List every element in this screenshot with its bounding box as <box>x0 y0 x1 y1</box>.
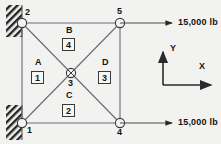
region-label-b: B <box>66 26 73 35</box>
figure-canvas: 2 1 3 4 5 A B C D 1 4 2 3 15,000 lb 15,0… <box>0 0 221 144</box>
element-box-1: 1 <box>31 71 44 84</box>
node-label-4: 4 <box>117 128 122 137</box>
node-3-marker <box>66 68 75 77</box>
load-label-bottom: 15,000 lb <box>178 118 218 127</box>
y-axis-label: Y <box>170 44 176 53</box>
region-label-c: C <box>66 91 73 100</box>
element-box-4: 4 <box>62 38 75 51</box>
node-2-marker <box>17 18 26 27</box>
load-label-top: 15,000 lb <box>178 18 218 27</box>
node-1-marker <box>17 118 26 127</box>
node-label-1: 1 <box>27 126 32 135</box>
node-label-2: 2 <box>25 8 30 17</box>
region-label-d: D <box>102 58 109 67</box>
element-box-3: 3 <box>98 71 111 84</box>
load-arrows <box>120 23 172 123</box>
node-label-3: 3 <box>68 79 73 88</box>
element-box-2: 2 <box>62 104 75 117</box>
region-label-a: A <box>35 58 42 67</box>
node-label-5: 5 <box>117 7 122 16</box>
x-axis-label: X <box>199 62 205 71</box>
